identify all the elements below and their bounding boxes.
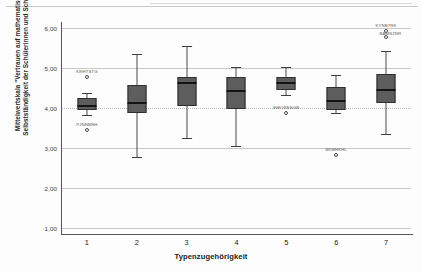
lower-whisker-cap <box>232 146 242 147</box>
outlier-label: SKMHKHL <box>325 147 347 152</box>
x-tick-label-1: 1 <box>85 238 89 247</box>
lower-whisker <box>136 113 137 157</box>
y-tick-label: 6,00 <box>45 25 57 32</box>
lower-whisker-cap <box>381 134 391 135</box>
box-plot-1: KRHTSTGPJNNBNH <box>62 28 112 228</box>
x-axis-line <box>61 234 413 235</box>
y-tick-label: 4,00 <box>45 105 57 112</box>
outlier-label: PJNNBNH <box>76 122 97 127</box>
outlier-point <box>334 153 338 157</box>
x-tick-label-3: 3 <box>185 238 189 247</box>
lower-whisker-cap <box>182 138 192 139</box>
upper-whisker <box>336 75 337 87</box>
outlier-point <box>85 75 89 79</box>
lower-whisker <box>386 103 387 134</box>
outlier-point <box>85 128 89 132</box>
median-line <box>127 102 146 104</box>
upper-whisker-cap <box>132 54 142 55</box>
lower-whisker-cap <box>281 95 291 96</box>
y-tick-label: 5,00 <box>45 65 57 72</box>
x-tick-label-4: 4 <box>234 238 238 247</box>
box-plot-2 <box>112 28 162 228</box>
y-tick-label: 1,00 <box>45 225 57 232</box>
upper-whisker <box>236 67 237 77</box>
box-plot-3 <box>162 28 212 228</box>
box-iqr <box>327 87 346 110</box>
outlier-point <box>284 111 288 115</box>
lower-whisker-cap <box>331 113 341 114</box>
box-iqr <box>127 85 146 113</box>
outlier-label: BAMS2NR <box>380 31 402 36</box>
scan-artifact-line <box>6 6 418 7</box>
box-plot-5: EMORESGB <box>261 28 311 228</box>
outlier-label: EMORESGB <box>273 105 299 110</box>
box-plot-4 <box>212 28 262 228</box>
plot-area: KRHTSTGPJNNBNHEMORESGBSKMHKHLKYNB7RKBAMS… <box>62 28 411 228</box>
box-iqr <box>227 77 246 109</box>
lower-whisker-cap <box>82 115 92 116</box>
box-plot-7: KYNB7RKBAMS2NR <box>361 28 411 228</box>
boxplot-figure: Mittelwertskala "Vertrauen auf mathemati… <box>0 0 422 273</box>
outlier-label: KRHTSTG <box>76 69 98 74</box>
upper-whisker-cap <box>281 67 291 68</box>
lower-whisker-cap <box>132 157 142 158</box>
y-tick-label: 2,00 <box>45 185 57 192</box>
upper-whisker <box>136 54 137 85</box>
x-tick-label-2: 2 <box>135 238 139 247</box>
upper-whisker-cap <box>182 46 192 47</box>
median-line <box>177 82 196 84</box>
median-line <box>77 105 96 107</box>
lower-whisker <box>186 106 187 138</box>
upper-whisker-cap <box>381 51 391 52</box>
x-axis-title: Typenzugehörigkeit <box>0 252 422 261</box>
gridline <box>62 228 411 229</box>
box-iqr <box>177 77 196 106</box>
y-tick-label: 3,00 <box>45 145 57 152</box>
box-plot-6: SKMHKHL <box>311 28 361 228</box>
upper-whisker <box>286 67 287 77</box>
upper-whisker-cap <box>232 67 242 68</box>
median-line <box>327 100 346 102</box>
upper-whisker <box>186 46 187 77</box>
upper-whisker-cap <box>82 93 92 94</box>
median-line <box>377 89 396 91</box>
x-tick-label-6: 6 <box>334 238 338 247</box>
upper-whisker <box>386 51 387 74</box>
x-tick-label-7: 7 <box>384 238 388 247</box>
median-line <box>277 82 296 84</box>
upper-whisker-cap <box>331 75 341 76</box>
x-tick-label-5: 5 <box>284 238 288 247</box>
y-axis-ticks: 1,002,003,004,005,006,00 <box>0 0 57 273</box>
median-line <box>227 90 246 92</box>
outlier-label: KYNB7RK <box>376 23 397 28</box>
lower-whisker <box>236 109 237 146</box>
scan-artifact-line-2 <box>150 3 412 4</box>
box-iqr <box>77 98 96 110</box>
